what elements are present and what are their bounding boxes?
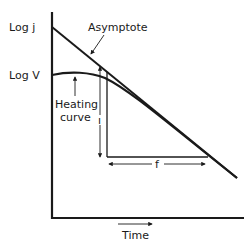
log-v-label: Log V (9, 69, 40, 82)
j-dimension-mark: ı (98, 114, 101, 127)
heating-curve-line (52, 73, 237, 178)
asymptote-label: Asymptote (88, 21, 148, 34)
heating-curve-label-1: Heating (55, 98, 98, 111)
log-j-label: Log j (9, 21, 35, 34)
heating-curve-label-2: curve (60, 111, 91, 124)
heating-curve-diagram: Log j Log V Asymptote Heating curve ı f … (0, 0, 252, 247)
time-label: Time (121, 229, 149, 242)
asymptote-leader (91, 35, 104, 54)
f-label: f (155, 158, 160, 171)
